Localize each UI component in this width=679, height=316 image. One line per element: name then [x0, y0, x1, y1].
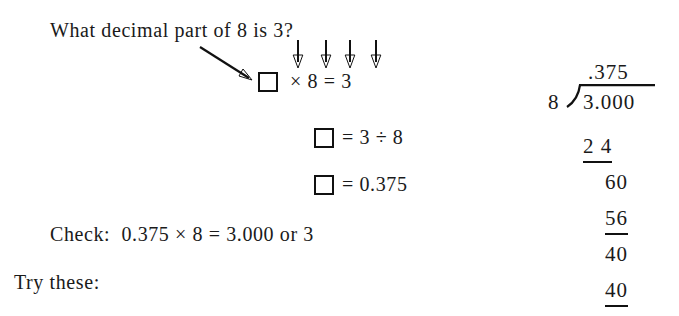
equation-1-text: × 8 = 3	[290, 70, 352, 93]
try-these-label: Try these:	[14, 272, 100, 292]
division-step-4: 40	[605, 242, 628, 267]
division-quotient: .375	[588, 62, 629, 83]
mapping-arrow-1	[293, 40, 303, 68]
division-step-3: 56	[605, 206, 628, 235]
equation-row-1: × 8 = 3	[258, 70, 352, 93]
answer-box-1[interactable]	[258, 72, 278, 92]
diagonal-pointer-arrow	[200, 47, 252, 80]
division-dividend: 3.000	[583, 92, 635, 113]
equation-2-text: = 3 ÷ 8	[342, 126, 403, 149]
long-division: .375 8 3.000 2 4 60 56 40 40	[510, 62, 535, 316]
worksheet-page: What decimal part of 8 is 3? × 8 = 3	[0, 0, 679, 316]
answer-box-2[interactable]	[314, 128, 334, 148]
division-step-1: 2 4	[583, 134, 612, 163]
equation-row-3: = 0.375	[314, 173, 407, 196]
mapping-arrow-3	[345, 40, 355, 68]
arrow-annotations-layer	[0, 0, 679, 316]
prompt-question: What decimal part of 8 is 3?	[50, 20, 293, 40]
division-divisor: 8	[548, 92, 560, 113]
check-line: Check: 0.375 × 8 = 3.000 or 3	[50, 224, 314, 244]
division-step-5: 40	[605, 278, 628, 307]
mapping-arrow-4	[371, 40, 381, 68]
equation-row-2: = 3 ÷ 8	[314, 126, 403, 149]
division-step-2: 60	[605, 170, 628, 195]
answer-box-3[interactable]	[314, 175, 334, 195]
equation-3-text: = 0.375	[342, 173, 407, 196]
mapping-arrow-2	[321, 40, 331, 68]
